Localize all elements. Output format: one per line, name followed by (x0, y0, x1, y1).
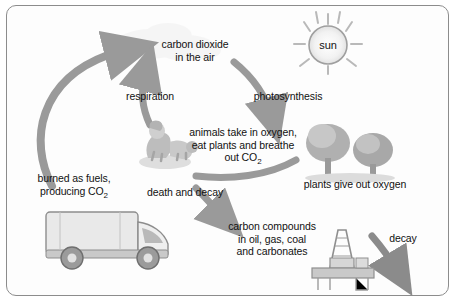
label-burned-subscript: 2 (104, 191, 108, 200)
label-decay: decay (378, 232, 428, 245)
label-photosynthesis: photosynthesis (242, 90, 334, 103)
trees-icon (305, 124, 395, 183)
label-death-and-decay: death and decay (132, 186, 238, 199)
truck-icon (46, 212, 168, 269)
label-carbon-compounds: carbon compounds in oil, gas, coal and c… (216, 220, 328, 258)
label-carbon-dioxide: carbon dioxide in the air (140, 38, 250, 63)
carbon-cycle-diagram: carbon dioxide in the air sun respiratio… (0, 0, 457, 303)
label-animals-text: animals take in oxygen, eat plants and b… (189, 126, 296, 163)
label-animals-subscript: 2 (257, 157, 261, 166)
label-animals: animals take in oxygen, eat plants and b… (178, 126, 308, 169)
label-burned-as-fuels: burned as fuels, producing CO2 (18, 172, 130, 202)
label-burned-text: burned as fuels, producing CO (37, 172, 110, 197)
label-plants-give-out-oxygen: plants give out oxygen (294, 178, 416, 191)
label-respiration: respiration (108, 90, 192, 103)
arrow-burned-to-co2 (41, 50, 128, 186)
label-sun: sun (308, 39, 348, 51)
